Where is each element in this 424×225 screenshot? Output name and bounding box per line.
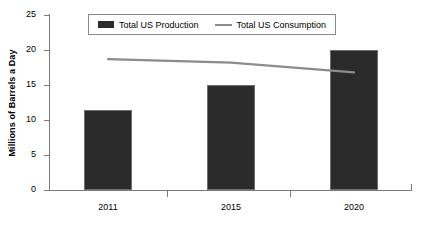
x-tick-divider-1 <box>167 191 168 197</box>
legend-label-production: Total US Production <box>119 20 199 30</box>
y-tick-label-0: 0 <box>31 184 36 195</box>
line-swatch-icon <box>215 24 232 26</box>
plot-area: 0 5 10 15 20 25 2011 2015 2020 <box>49 14 412 191</box>
x-tick-label-2011: 2011 <box>98 202 117 213</box>
legend-label-consumption: Total US Consumption <box>237 20 327 30</box>
consumption-line-path <box>108 59 354 72</box>
y-tick-label-25: 25 <box>26 9 36 20</box>
y-tick-label-20: 20 <box>26 44 36 55</box>
x-tick-label-2015: 2015 <box>221 202 241 213</box>
x-tick-divider-2 <box>290 191 291 197</box>
legend-entry-consumption: Total US Consumption <box>215 20 327 30</box>
y-tick-label-5: 5 <box>31 149 36 160</box>
y-tick-label-15: 15 <box>26 79 36 90</box>
y-axis-title: Millions of Barrels a Day <box>2 28 22 178</box>
y-axis-title-label: Millions of Barrels a Day <box>7 49 17 156</box>
chart-container: Millions of Barrels a Day 0 5 10 15 20 2… <box>0 0 424 225</box>
y-tick-label-10: 10 <box>26 114 36 125</box>
consumption-line-series <box>49 14 412 191</box>
bar-swatch-icon <box>98 21 114 28</box>
chart-legend: Total US Production Total US Consumption <box>88 14 336 35</box>
x-tick-label-2020: 2020 <box>344 202 364 213</box>
legend-entry-production: Total US Production <box>98 20 199 30</box>
